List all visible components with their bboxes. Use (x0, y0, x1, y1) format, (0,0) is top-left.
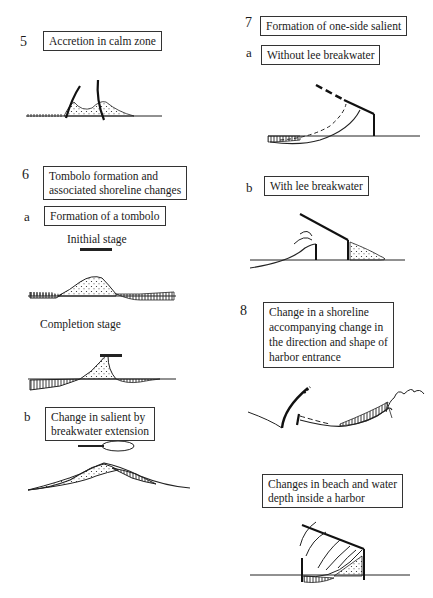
section-6-title: Tombolo formation and associated shoreli… (43, 166, 187, 200)
erosion-area (27, 114, 63, 117)
offshore-breakwater (100, 354, 122, 357)
section-6b-title-line2: breakwater extension (51, 424, 149, 438)
erosion-area (116, 292, 174, 300)
harbor-changes-title-line1: Changes in beach and water (268, 477, 397, 491)
section-6a-letter: a (24, 209, 30, 225)
lee-breakwater (297, 414, 299, 425)
section-8-title-line4: harbor entrance (269, 350, 388, 365)
shoreline (250, 244, 316, 268)
erosion-area (340, 402, 388, 426)
shoreline-dashed (300, 416, 330, 424)
section-8-title-line1: Change in a shoreline (269, 305, 388, 320)
section-7b-letter: b (246, 180, 253, 196)
harbor-changes-title-line2: depth inside a harbor (268, 491, 397, 505)
section-6-number: 6 (22, 167, 29, 183)
fig-7b-with-lee (250, 214, 405, 268)
section-7b-title: With lee breakwater (264, 176, 369, 196)
erosion-area (268, 136, 300, 142)
section-7-number: 7 (245, 15, 252, 31)
tombolo-accretion (80, 356, 116, 379)
shoreline-dashed (280, 104, 346, 140)
fig-5-accretion (26, 80, 162, 120)
section-6a-title: Formation of a tombolo (44, 206, 166, 226)
fig-6a-initial (28, 248, 176, 300)
section-7a-title: Without lee breakwater (261, 45, 380, 65)
breakwater (300, 214, 348, 240)
fig-8-harbor (250, 522, 410, 583)
fig-8-entrance (248, 387, 424, 428)
diagram-drawings (0, 0, 433, 598)
fig-7a-without-lee (268, 85, 420, 144)
breakwater-extension-outline (102, 441, 134, 451)
section-8-title-line2: accompanying change in (269, 320, 388, 335)
section-7a-letter: a (246, 45, 252, 61)
section-8-title-line3: the direction and shape of (269, 335, 388, 350)
section-6-title-line2: associated shoreline changes (49, 183, 181, 197)
fig-6a-completion (28, 354, 176, 390)
section-6-title-line1: Tombolo formation and (49, 169, 181, 183)
accretion-area (350, 242, 385, 260)
harbor-changes-title: Changes in beach and water depth inside … (262, 474, 403, 508)
section-6b-title: Change in salient by breakwater extensio… (45, 407, 155, 441)
breakwater-curved (282, 388, 308, 428)
breakwater (78, 445, 104, 447)
salient-accretion (58, 277, 116, 296)
section-5-number: 5 (20, 34, 27, 50)
completion-stage-caption: Completion stage (40, 318, 121, 330)
section-8-title: Change in a shoreline accompanying chang… (263, 302, 394, 368)
section-8-number: 8 (240, 303, 247, 319)
section-5-title: Accretion in calm zone (43, 31, 162, 51)
section-7-title: Formation of one-side salient (260, 16, 407, 36)
section-6b-title-line1: Change in salient by (51, 410, 149, 424)
fig-6b-extension (28, 441, 190, 490)
erosion-area (30, 379, 80, 390)
erosion-area (112, 468, 156, 484)
accretion-area (334, 556, 362, 576)
initial-stage-caption: Inithial stage (67, 233, 127, 245)
accretion-area (28, 464, 118, 490)
breakwater-extension-dashed (316, 85, 344, 100)
offshore-breakwater (80, 248, 112, 251)
section-6b-letter: b (24, 409, 31, 425)
